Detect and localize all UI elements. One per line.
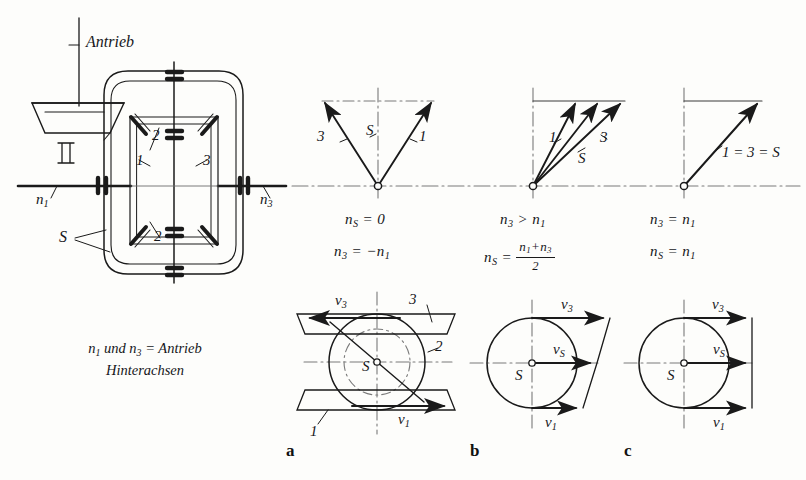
velocity-diagram-b xyxy=(470,300,610,430)
velocity-label-vS-c: vS xyxy=(713,341,725,359)
speed-diagram-middle xyxy=(529,88,625,200)
panel-letter-a: a xyxy=(286,441,295,461)
vector-label-3-left: 3 xyxy=(317,128,325,145)
velocity-diagram-a xyxy=(297,292,455,434)
circle-label-2-a: 2 xyxy=(435,338,443,355)
equation-right-2: nS = n1 xyxy=(650,243,696,261)
velocity-label-vS-b: vS xyxy=(553,341,565,359)
speed-label-n3: n3 xyxy=(260,191,273,209)
gear-label-2-bottom: 2 xyxy=(154,228,162,245)
figure-canvas: Antrieb n1 n3 S 2 1 3 2 n1 und n3 = Antr… xyxy=(0,0,806,480)
fraction-mean-speed: n1+n3 2 xyxy=(516,240,555,273)
gear-label-2-top: 2 xyxy=(152,127,160,144)
velocity-label-v1-c: v1 xyxy=(713,414,725,432)
center-label-S-c: S xyxy=(667,367,675,384)
panel-letter-c: c xyxy=(624,441,632,461)
velocity-diagram-c xyxy=(624,300,752,430)
velocity-label-v1-a: v1 xyxy=(398,411,410,429)
speed-label-n1: n1 xyxy=(36,191,49,209)
equation-left-2: n3 = −n1 xyxy=(334,243,390,261)
cage-label-S: S xyxy=(59,228,67,246)
vector-label-1-middle: 1 xyxy=(549,129,557,146)
center-label-S-a: S xyxy=(362,358,370,375)
speed-diagram-left xyxy=(322,88,434,200)
velocity-label-v3-b: v3 xyxy=(561,296,573,314)
vector-label-equal-right: 1 = 3 = S xyxy=(722,144,780,161)
figure-vector-layer xyxy=(0,0,806,480)
velocity-label-v3-a: v3 xyxy=(335,292,347,310)
equation-middle-2: nS = n1+n3 2 xyxy=(484,240,555,273)
vector-label-S-left: S xyxy=(366,122,374,139)
gear-label-3: 3 xyxy=(203,152,211,169)
mechanism-caption: n1 und n3 = Antrieb Hinterachsen xyxy=(40,338,250,381)
drive-label: Antrieb xyxy=(86,33,134,51)
vector-label-1-left: 1 xyxy=(419,128,427,145)
plate-label-3-a: 3 xyxy=(409,291,417,308)
vector-label-3-middle: 3 xyxy=(600,129,608,146)
center-label-S-b: S xyxy=(515,367,523,384)
equation-right-1: n3 = n1 xyxy=(650,211,696,229)
plate-label-1-a: 1 xyxy=(310,423,318,440)
vector-label-S-middle: S xyxy=(578,150,586,167)
velocity-label-v1-b: v1 xyxy=(545,414,557,432)
gear-label-1: 1 xyxy=(136,152,144,169)
equation-left-1: nS = 0 xyxy=(345,211,385,229)
equation-middle-1: n3 > n1 xyxy=(500,211,546,229)
velocity-label-v3-c: v3 xyxy=(712,296,724,314)
panel-letter-b: b xyxy=(470,441,479,461)
